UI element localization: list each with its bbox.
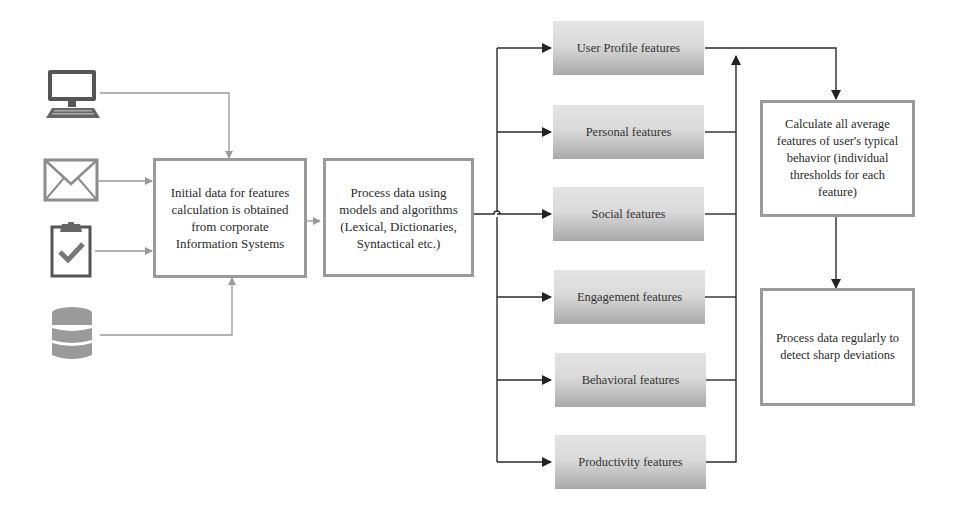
clipboard-check-icon (50, 222, 92, 278)
feature-productivity: Productivity features (555, 435, 706, 489)
feature-personal: Personal features (553, 105, 704, 159)
computer-icon (44, 68, 102, 120)
initial-data-text: Initial data for features calculation is… (162, 184, 298, 252)
feature-label: Social features (592, 207, 666, 222)
feature-social: Social features (553, 187, 704, 241)
feature-label: Engagement features (577, 290, 682, 305)
feature-user-profile: User Profile features (553, 21, 704, 75)
feature-label: Personal features (586, 125, 672, 140)
process-models-box: Process data using models and algorithms… (323, 158, 474, 277)
detect-deviations-text: Process data regularly to detect sharp d… (769, 330, 906, 364)
feature-engagement: Engagement features (554, 270, 705, 324)
database-icon (51, 306, 93, 362)
feature-label: Productivity features (578, 455, 683, 470)
calculate-average-text: Calculate all average features of user's… (769, 116, 906, 201)
feature-behavioral: Behavioral features (555, 353, 706, 407)
initial-data-box: Initial data for features calculation is… (153, 158, 307, 278)
detect-deviations-box: Process data regularly to detect sharp d… (760, 288, 915, 406)
calculate-average-box: Calculate all average features of user's… (760, 100, 915, 217)
feature-label: Behavioral features (582, 373, 680, 388)
process-models-text: Process data using models and algorithms… (332, 184, 465, 252)
envelope-icon (43, 158, 99, 202)
connector-lines (0, 0, 960, 519)
feature-label: User Profile features (577, 41, 680, 56)
